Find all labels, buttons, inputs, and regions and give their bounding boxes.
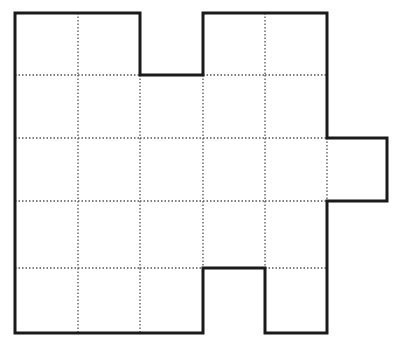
dotted-grid-lines <box>15 13 327 333</box>
polyomino-diagram <box>0 0 418 349</box>
shape-outline <box>15 13 387 333</box>
